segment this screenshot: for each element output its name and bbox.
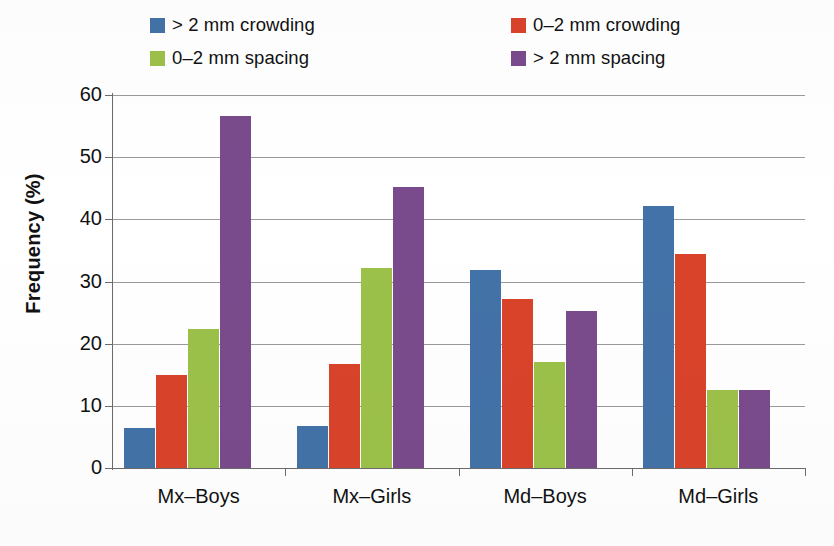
- x-axis-tick-mark: [285, 468, 286, 476]
- y-axis-tick-label: 0: [58, 457, 102, 477]
- bar: [220, 116, 251, 468]
- bar: [297, 426, 328, 468]
- bar: [566, 311, 597, 468]
- gridline: [112, 219, 805, 220]
- x-axis-category-label: Mx–Girls: [285, 485, 458, 508]
- legend-swatch-1: [511, 18, 526, 33]
- bar: [643, 206, 674, 468]
- x-axis-tick-mark: [459, 468, 460, 476]
- y-axis-tick-labels: 0102030405060: [56, 0, 102, 546]
- y-axis-tick-label: 50: [58, 146, 102, 166]
- bar: [470, 270, 501, 468]
- legend-swatch-3: [511, 51, 526, 66]
- gridline: [112, 157, 805, 158]
- y-axis-tick-label: 40: [58, 208, 102, 228]
- x-axis-category-label: Md–Girls: [632, 485, 805, 508]
- y-axis-tick-label: 30: [58, 271, 102, 291]
- gridline: [112, 95, 805, 96]
- bar: [393, 187, 424, 468]
- plot-area: [112, 95, 805, 468]
- x-axis-tick-mark: [805, 468, 806, 476]
- legend-item-2[interactable]: 0–2 mm spacing: [150, 49, 309, 68]
- bar-chart-figure: > 2 mm crowding 0–2 mm crowding 0–2 mm s…: [0, 0, 834, 546]
- y-axis-tick-mark: [105, 219, 113, 220]
- legend-item-1[interactable]: 0–2 mm crowding: [511, 16, 681, 35]
- chart-legend: > 2 mm crowding 0–2 mm crowding 0–2 mm s…: [140, 16, 700, 78]
- y-axis-tick-mark: [105, 344, 113, 345]
- bar: [707, 390, 738, 468]
- legend-item-3[interactable]: > 2 mm spacing: [511, 49, 666, 68]
- y-axis-tick-mark: [105, 282, 113, 283]
- x-axis-category-label: Mx–Boys: [112, 485, 285, 508]
- bar: [124, 428, 155, 468]
- legend-label-0: > 2 mm crowding: [172, 16, 315, 35]
- x-axis-tick-mark: [632, 468, 633, 476]
- y-axis-tick-label: 10: [58, 395, 102, 415]
- y-axis-tick-label: 20: [58, 333, 102, 353]
- bar: [502, 299, 533, 468]
- x-axis-category-label: Md–Boys: [459, 485, 632, 508]
- y-axis-tick-mark: [105, 406, 113, 407]
- bar: [739, 390, 770, 468]
- y-axis-tick-mark: [105, 468, 113, 469]
- y-axis-tick-label: 60: [58, 84, 102, 104]
- legend-item-0[interactable]: > 2 mm crowding: [150, 16, 315, 35]
- legend-label-2: 0–2 mm spacing: [172, 49, 309, 68]
- legend-label-3: > 2 mm spacing: [533, 49, 666, 68]
- legend-swatch-0: [150, 18, 165, 33]
- bar: [675, 254, 706, 468]
- y-axis-tick-mark: [105, 157, 113, 158]
- bar: [188, 329, 219, 468]
- y-axis-tick-mark: [105, 95, 113, 96]
- bar: [156, 375, 187, 468]
- legend-swatch-2: [150, 51, 165, 66]
- bar: [534, 362, 565, 468]
- y-axis-title: Frequency (%): [22, 149, 45, 339]
- legend-label-1: 0–2 mm crowding: [533, 16, 681, 35]
- bar: [361, 268, 392, 468]
- bar: [329, 364, 360, 468]
